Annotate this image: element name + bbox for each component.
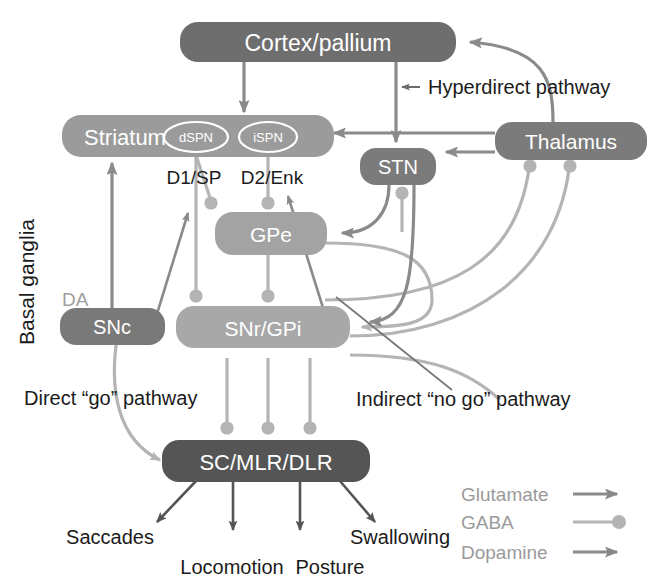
- node-snrgpi-label: SNr/GPi: [224, 317, 301, 340]
- legend-item-gaba-label: GABA: [461, 512, 514, 533]
- node-snc[interactable]: SNc: [60, 308, 165, 345]
- gaba-terminal-dspn-gpe: [204, 196, 217, 209]
- gaba-terminal-dspn-snrgpi: [189, 289, 202, 302]
- edge-stn-gpe: [342, 185, 389, 233]
- gaba-terminal-gpe-stn: [395, 186, 408, 199]
- label-basal-ganglia: Basal ganglia: [15, 219, 38, 345]
- label-output-saccades: Saccades: [66, 526, 154, 548]
- node-ispn-label: iSPN: [253, 130, 283, 145]
- node-thalamus[interactable]: Thalamus: [495, 122, 647, 160]
- node-cortex[interactable]: Cortex/pallium: [180, 22, 456, 62]
- basal-ganglia-diagram: Cortex/pallium Striatum dSPN iSPN D1/SP …: [0, 0, 654, 588]
- legend-item-glutamate-label: Glutamate: [461, 484, 549, 505]
- label-hyperdirect-pathway: Hyperdirect pathway: [428, 76, 610, 98]
- label-output-swallowing: Swallowing: [350, 526, 450, 548]
- label-output-posture: Posture: [296, 556, 365, 578]
- legend-gaba-ball-icon: [612, 515, 626, 529]
- gaba-terminal-sc-2: [261, 421, 274, 434]
- node-scmlrdlr-label: SC/MLR/DLR: [199, 450, 332, 475]
- label-indirect-pathway: Indirect “no go” pathway: [356, 388, 571, 410]
- gaba-terminal-snrgpi-thalamus: [563, 159, 576, 172]
- node-scmlrdlr[interactable]: SC/MLR/DLR: [162, 440, 370, 482]
- edge-stn-snrgpi: [370, 185, 414, 322]
- gaba-terminal-ispn-gpe: [261, 196, 274, 209]
- node-dspn-label: dSPN: [179, 130, 213, 145]
- gaba-terminal-sc-1: [220, 421, 233, 434]
- label-direct-pathway: Direct “go” pathway: [24, 387, 197, 409]
- node-striatum-label: Striatum: [84, 125, 166, 150]
- node-stn[interactable]: STN: [360, 148, 436, 185]
- edge-output-saccades: [157, 481, 196, 522]
- node-gpe[interactable]: GPe: [215, 212, 327, 255]
- node-snc-label: SNc: [93, 316, 131, 338]
- gaba-terminal-gpe-thalamus: [523, 159, 536, 172]
- label-da: DA: [62, 289, 89, 310]
- gaba-terminal-gpe-snrgpi: [261, 289, 274, 302]
- label-d2enk: D2/Enk: [241, 167, 304, 188]
- node-snrgpi[interactable]: SNr/GPi: [176, 306, 350, 348]
- label-d1sp: D1/SP: [167, 167, 222, 188]
- node-stn-label: STN: [378, 156, 418, 178]
- node-cortex-label: Cortex/pallium: [245, 30, 392, 56]
- label-output-locomotion: Locomotion: [180, 556, 283, 578]
- diagram-canvas: Cortex/pallium Striatum dSPN iSPN D1/SP …: [0, 0, 654, 588]
- gaba-terminal-sc-3: [303, 421, 316, 434]
- node-gpe-label: GPe: [250, 223, 292, 246]
- node-thalamus-label: Thalamus: [525, 130, 617, 153]
- node-striatum[interactable]: Striatum dSPN iSPN: [62, 115, 334, 157]
- edge-output-swallowing: [340, 481, 375, 522]
- legend-item-dopamine-label: Dopamine: [461, 542, 548, 563]
- legend: Glutamate GABA Dopamine: [461, 484, 626, 563]
